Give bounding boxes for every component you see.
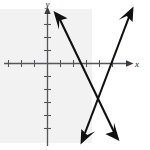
x-axis-label: x (134, 59, 139, 69)
ascending-line-arrowhead-up-right-icon (119, 7, 134, 22)
descending-line-arrowhead-down-right-icon (105, 123, 119, 141)
coordinate-plane-svg: x y (0, 0, 150, 150)
graph-figure: x y (0, 0, 150, 150)
y-axis-label: y (45, 0, 50, 9)
x-axis-arrowhead-icon (126, 60, 134, 66)
